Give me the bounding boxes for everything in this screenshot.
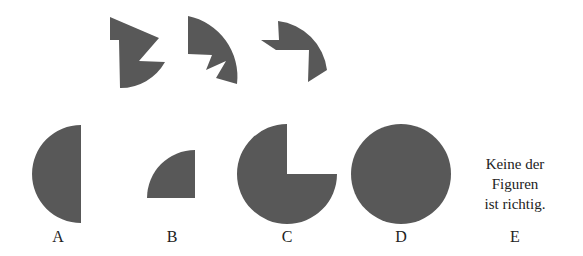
- option-d-label[interactable]: D: [395, 228, 407, 246]
- option-e-text[interactable]: Keine der Figuren ist richtig.: [485, 154, 546, 214]
- option-e-line-3: ist richtig.: [485, 194, 546, 214]
- option-c-shape[interactable]: [237, 124, 337, 224]
- option-b-shape[interactable]: [147, 150, 195, 198]
- piece-1: [110, 17, 165, 88]
- option-a-shape[interactable]: [32, 125, 81, 223]
- option-d-shape[interactable]: [351, 124, 451, 224]
- option-e-line-1: Keine der: [485, 154, 546, 174]
- puzzle-canvas: [0, 0, 583, 256]
- option-e-line-2: Figuren: [485, 174, 546, 194]
- piece-3: [261, 21, 327, 82]
- option-a-label[interactable]: A: [52, 228, 64, 246]
- option-b-label[interactable]: B: [167, 228, 178, 246]
- piece-2: [188, 16, 237, 84]
- option-e-label[interactable]: E: [510, 228, 520, 246]
- option-c-label[interactable]: C: [282, 228, 293, 246]
